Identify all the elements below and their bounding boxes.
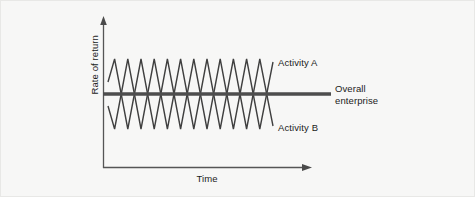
y-axis-title: Rate of return — [89, 25, 101, 105]
overall-enterprise-label-line2: enterprise — [335, 95, 378, 107]
chart-plot-area — [1, 1, 475, 197]
arrow-right-icon — [302, 164, 312, 171]
activity-a-label: Activity A — [278, 57, 318, 69]
activity-b-label: Activity B — [278, 122, 318, 134]
figure-container: Rate of return Time Activity A Activity … — [0, 0, 475, 197]
overall-enterprise-label-line1: Overall — [335, 83, 366, 94]
x-axis-title: Time — [164, 173, 250, 185]
overall-enterprise-label: Overallenterprise — [335, 83, 378, 106]
arrow-up-icon — [100, 16, 107, 25]
